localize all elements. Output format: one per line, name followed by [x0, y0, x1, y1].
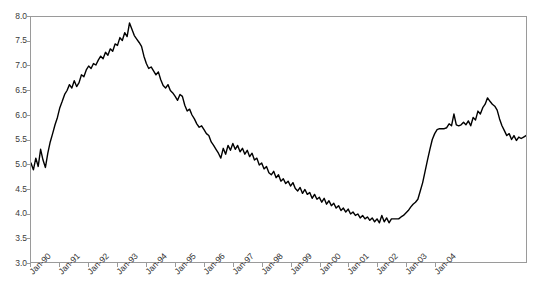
line-chart: 8.07.57.06.56.05.55.04.54.03.53.0 Jan-90… [0, 0, 545, 306]
chart-title [0, 0, 545, 2]
x-axis: Jan-90Jan-91Jan-92Jan-93Jan-94Jan-95Jan-… [30, 263, 527, 306]
series-line [31, 17, 526, 262]
y-axis: 8.07.57.06.56.05.55.04.54.03.53.0 [0, 16, 30, 263]
plot-area [30, 16, 527, 263]
